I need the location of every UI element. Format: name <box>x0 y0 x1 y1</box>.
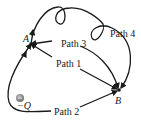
path-3-curve-b <box>80 46 118 88</box>
path-diagram: A B −Q Path 3 Path 4 Path 1 Path 2 <box>0 0 141 127</box>
path-4-label: Path 4 <box>110 28 135 39</box>
point-a-dot <box>29 42 33 46</box>
path-3-curve <box>31 41 52 44</box>
point-b-label: B <box>115 95 121 106</box>
path-2-label: Path 2 <box>54 106 79 117</box>
point-a-label: A <box>22 33 30 44</box>
path-3-label: Path 3 <box>61 38 86 49</box>
path-1-line-a <box>31 44 52 57</box>
charge-label: −Q <box>17 100 32 111</box>
path-1-label: Path 1 <box>56 58 81 69</box>
path-2-curve-b <box>80 91 117 107</box>
point-b-dot <box>117 88 121 92</box>
diagram-canvas: A B −Q Path 3 Path 4 Path 1 Path 2 <box>0 0 141 127</box>
